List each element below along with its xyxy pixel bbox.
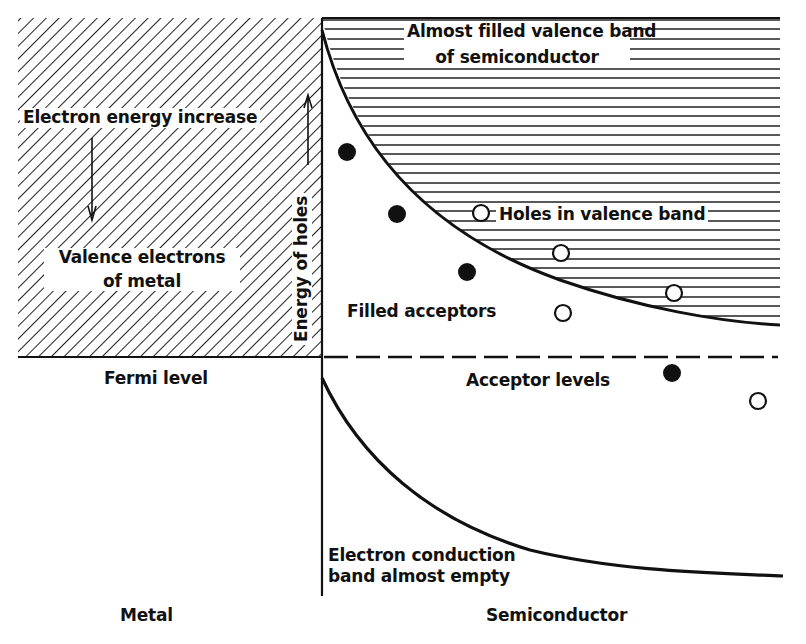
label-valence-electrons-line1: Valence electrons <box>47 248 237 268</box>
label-conduction-line1: Electron conduction <box>328 546 515 566</box>
label-filled-acceptors: Filled acceptors <box>347 302 496 322</box>
label-valence-electrons-metal: Valence electrons of metal <box>44 248 240 291</box>
valence-band-edge-curve <box>322 30 780 325</box>
label-electron-energy-increase: Electron energy increase <box>20 108 260 128</box>
label-acceptor-levels: Acceptor levels <box>466 371 610 391</box>
label-valence-electrons-line2: of metal <box>47 272 237 292</box>
label-semiconductor: Semiconductor <box>486 606 627 626</box>
label-conduction-line2: band almost empty <box>328 567 515 587</box>
label-energy-of-holes: Energy of holes <box>292 193 312 345</box>
label-almost-filled-line1: Almost filled valence band <box>407 22 627 42</box>
label-holes-in-valence-band: Holes in valence band <box>496 205 708 225</box>
label-fermi-level: Fermi level <box>104 369 208 389</box>
label-metal: Metal <box>120 606 173 626</box>
filled-acceptor-markers <box>338 143 681 382</box>
metal-valence-region <box>18 18 322 356</box>
label-almost-filled-valence: Almost filled valence band of semiconduc… <box>404 22 630 67</box>
label-almost-filled-line2: of semiconductor <box>407 48 627 68</box>
label-conduction-band: Electron conduction band almost empty <box>328 546 515 586</box>
